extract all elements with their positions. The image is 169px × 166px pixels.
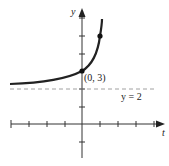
y-axis-label: y (70, 6, 76, 17)
point-1-5 (97, 33, 102, 38)
x-axis-label: t (162, 127, 165, 138)
asymptote-label: y = 2 (121, 91, 142, 102)
x-axis (11, 120, 158, 128)
y-axis (79, 14, 85, 158)
graph: y t (0, 3) y = 2 (0, 0, 169, 166)
point-label: (0, 3) (84, 72, 106, 84)
y-axis-arrow-icon (79, 8, 86, 17)
